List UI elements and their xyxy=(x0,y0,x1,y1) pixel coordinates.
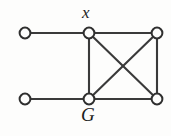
vertex-top-right[interactable] xyxy=(152,28,163,39)
vertex-bottom-middle-G[interactable] xyxy=(84,94,95,105)
vertex-top-middle-x[interactable] xyxy=(84,28,95,39)
graph-figure: x G xyxy=(0,0,171,136)
edge-group xyxy=(25,33,157,99)
vertex-bottom-left[interactable] xyxy=(20,94,31,105)
vertex-bottom-right[interactable] xyxy=(152,94,163,105)
vertex-label-x: x xyxy=(82,4,90,21)
vertex-group xyxy=(20,28,163,105)
graph-label-G: G xyxy=(81,105,95,124)
vertex-top-left[interactable] xyxy=(20,28,31,39)
